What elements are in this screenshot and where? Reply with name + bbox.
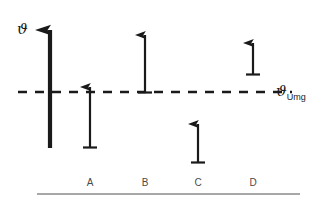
category-label-d: D (241, 178, 265, 188)
figure-container: ϑ ϑUmg A B C D (0, 0, 318, 205)
arrow-range-b (138, 35, 152, 93)
category-label-b: B (133, 178, 157, 188)
arrow-range-c (191, 124, 205, 163)
reference-line-subscript: Umg (287, 92, 306, 102)
diagram-canvas (0, 0, 318, 205)
category-label-a: A (78, 178, 102, 188)
arrow-range-d (246, 43, 260, 75)
y-axis-label-theta: ϑ (17, 22, 28, 37)
arrow-range-a (83, 87, 97, 148)
category-label-c: C (186, 178, 210, 188)
reference-line-label-theta-umg: ϑUmg (276, 84, 306, 102)
reference-line-theta-symbol: ϑ (276, 82, 287, 100)
